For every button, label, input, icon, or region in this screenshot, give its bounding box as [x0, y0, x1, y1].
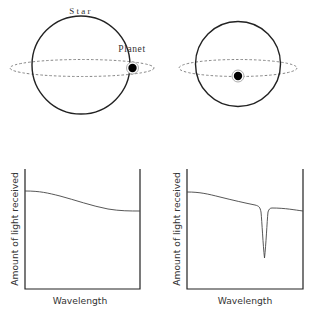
- y-axis-label: Amount of light received: [9, 172, 20, 286]
- spectrum-line: [25, 191, 140, 211]
- star-circle: [196, 22, 281, 107]
- exoplanet-transit-diagram: Star Planet Amount of light received Wav…: [0, 0, 311, 315]
- star-circle: [32, 16, 130, 114]
- x-axis-label: Wavelength: [53, 295, 108, 306]
- y-axis-label: Amount of light received: [171, 172, 182, 286]
- panel-star-planet-beside: Star Planet: [10, 6, 154, 114]
- star-label: Star: [69, 6, 92, 16]
- panel-planet-transit: [179, 22, 297, 107]
- chart-frame: [25, 169, 140, 289]
- spectrum-line-with-absorption-dip: [187, 192, 303, 258]
- chart-no-transit: Amount of light received Wavelength: [9, 169, 140, 306]
- planet-icon: [128, 64, 136, 72]
- planet-label: Planet: [118, 44, 145, 54]
- chart-with-transit: Amount of light received Wavelength: [171, 169, 303, 306]
- x-axis-label: Wavelength: [218, 295, 273, 306]
- chart-frame: [187, 169, 303, 289]
- planet-icon: [234, 72, 242, 80]
